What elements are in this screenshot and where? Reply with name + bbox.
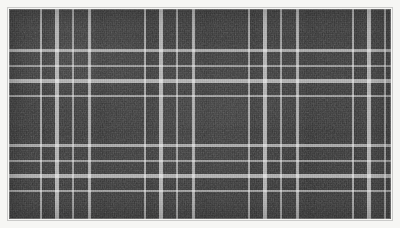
fabric-grain-noise — [9, 9, 391, 219]
image-viewport — [0, 0, 400, 228]
fabric-swatch — [9, 9, 391, 219]
